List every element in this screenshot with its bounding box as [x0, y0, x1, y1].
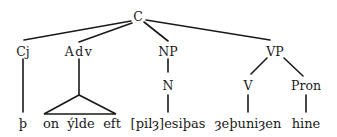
- tree-edges: [23, 20, 306, 114]
- leaf-hine: hine: [292, 116, 321, 131]
- node-n: N: [163, 78, 174, 93]
- leaf-ylde: ýlde: [66, 116, 95, 131]
- syntax-tree: C Cj Adv NP VP N V Pron þ on ýlde eft [p…: [0, 0, 337, 137]
- node-adv: Adv: [64, 44, 94, 59]
- leaf-eft: eft: [103, 116, 122, 131]
- edge-c-cj: [24, 21, 131, 40]
- adv-triangle: [44, 95, 116, 114]
- leaf-gethunigen: ȝeþuniȝen: [215, 116, 282, 131]
- edge-c-np: [144, 22, 168, 41]
- node-c: C: [133, 9, 143, 24]
- node-vp: VP: [265, 44, 283, 59]
- leaf-on: on: [43, 116, 60, 131]
- edge-vp-v: [251, 58, 267, 74]
- edge-vp-pron: [284, 58, 303, 76]
- node-cj: Cj: [16, 44, 29, 59]
- tree-nodes: C Cj Adv NP VP N V Pron: [16, 9, 321, 93]
- edge-c-vp: [146, 20, 270, 40]
- node-v: V: [242, 78, 253, 93]
- leaf-pilg-esithas: [pilȝ]esiþas: [131, 116, 206, 131]
- node-pron: Pron: [291, 78, 321, 93]
- node-np: NP: [158, 44, 177, 59]
- tree-leaves: þ on ýlde eft [pilȝ]esiþas ȝeþuniȝen hin…: [19, 116, 321, 131]
- leaf-thorn: þ: [19, 116, 27, 131]
